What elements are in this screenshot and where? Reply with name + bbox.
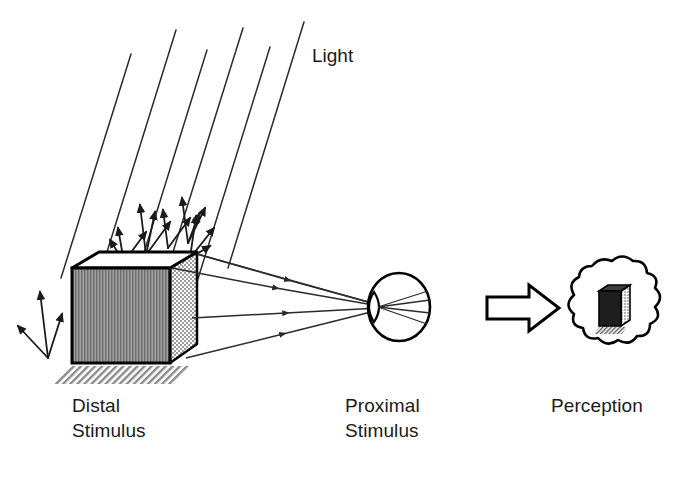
projection-ray xyxy=(197,254,379,305)
scatter-arrow xyxy=(18,326,48,358)
light-ray xyxy=(102,30,176,268)
perception-diagram: Light xyxy=(0,0,694,478)
incident-light-rays xyxy=(61,22,304,285)
proximal-stimulus-label-line2: Stimulus xyxy=(345,420,419,441)
mini-cube-shadow xyxy=(594,327,627,334)
scatter-arrow xyxy=(40,292,48,358)
scatter-arrow xyxy=(163,210,168,248)
scatter-arrow xyxy=(140,205,146,255)
perception-cloud xyxy=(569,257,661,344)
scatter-arrow xyxy=(48,314,62,358)
light-label: Light xyxy=(312,45,354,66)
scattered-reflection-arrows-left xyxy=(18,292,62,358)
cube-shadow xyxy=(52,366,192,384)
transition-arrow xyxy=(487,285,559,331)
perception-label: Perception xyxy=(551,395,643,416)
projection-rays xyxy=(172,254,379,358)
proximal-stimulus-eye xyxy=(368,273,430,341)
mini-cube-front-face xyxy=(599,291,621,326)
projection-ray xyxy=(172,268,379,306)
proximal-stimulus-label-line1: Proximal xyxy=(345,395,420,416)
eye-lens xyxy=(369,292,379,322)
cube-front-face xyxy=(72,268,170,363)
distal-stimulus-label-line2: Stimulus xyxy=(72,420,146,441)
distal-stimulus-label-line1: Distal xyxy=(72,395,120,416)
mini-cube-side-face xyxy=(621,285,630,326)
diagram-canvas: Light xyxy=(0,0,694,478)
stage-labels: Distal Stimulus Proximal Stimulus Percep… xyxy=(72,395,643,441)
distal-stimulus-cube xyxy=(52,252,197,384)
